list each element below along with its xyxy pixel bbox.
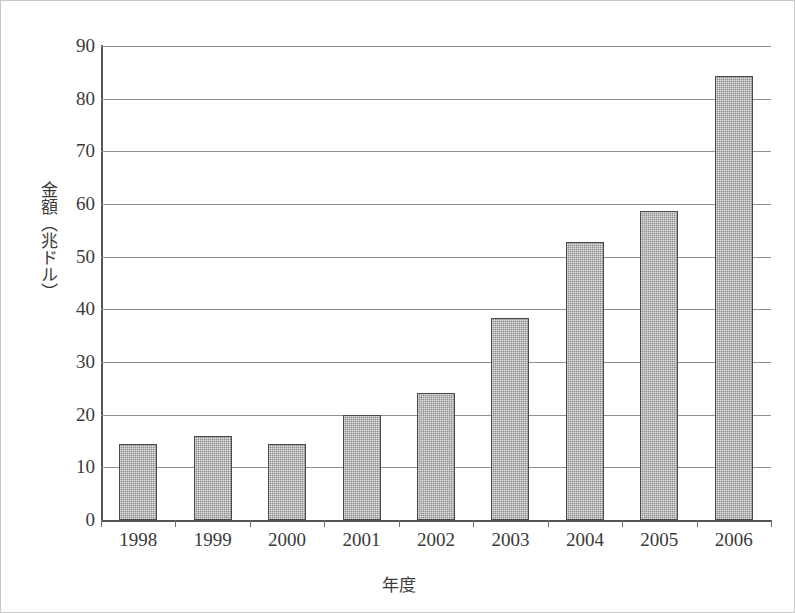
x-axis-tick-marks <box>101 520 771 528</box>
y-tick-label-10: 10 <box>57 457 95 476</box>
x-axis-title: 年度 <box>1 571 795 596</box>
bar-cell <box>548 46 622 520</box>
y-tick-label-70: 70 <box>57 141 95 160</box>
bar-2001 <box>343 415 381 520</box>
bar-2003 <box>491 318 529 520</box>
x-tick-mark <box>250 520 251 527</box>
y-axis-title: 金額（兆ドル） <box>23 181 57 300</box>
bar-cell <box>175 46 249 520</box>
x-tick-label-2005: 2005 <box>640 529 678 551</box>
x-tick-label-2002: 2002 <box>417 529 455 551</box>
x-tick-mark <box>473 520 474 527</box>
bar-cell <box>697 46 771 520</box>
y-tick-label-20: 20 <box>57 405 95 424</box>
bar-2006 <box>715 76 753 521</box>
x-tick-mark <box>548 520 549 527</box>
y-axis-tick-labels: 0102030405060708090 <box>57 1 95 613</box>
plot-area <box>101 46 771 520</box>
x-tick-label-2001: 2001 <box>343 529 381 551</box>
x-tick-label-1999: 1999 <box>194 529 232 551</box>
y-tick-label-80: 80 <box>57 89 95 108</box>
x-tick-label-2004: 2004 <box>566 529 604 551</box>
bar-cell <box>101 46 175 520</box>
x-tick-mark <box>622 520 623 527</box>
x-tick-mark <box>697 520 698 527</box>
x-tick-label-2003: 2003 <box>491 529 529 551</box>
bar-1999 <box>194 436 232 520</box>
chart-page: 金額（兆ドル） 0102030405060708090 199819992000… <box>0 0 795 613</box>
y-tick-label-30: 30 <box>57 352 95 371</box>
y-tick-label-50: 50 <box>57 247 95 266</box>
x-tick-label-1998: 1998 <box>119 529 157 551</box>
y-tick-label-60: 60 <box>57 194 95 213</box>
x-tick-label-2006: 2006 <box>715 529 753 551</box>
bar-2005 <box>640 211 678 520</box>
x-tick-mark <box>101 520 102 527</box>
bar-cell <box>622 46 696 520</box>
x-tick-mark <box>324 520 325 527</box>
bar-2002 <box>417 393 455 520</box>
bar-2004 <box>566 242 604 520</box>
bar-cell <box>250 46 324 520</box>
x-tick-label-2000: 2000 <box>268 529 306 551</box>
y-tick-label-90: 90 <box>57 36 95 55</box>
x-tick-mark <box>771 520 772 527</box>
y-tick-label-40: 40 <box>57 299 95 318</box>
y-tick-label-0: 0 <box>57 510 95 529</box>
bar-2000 <box>268 444 306 520</box>
bar-series <box>101 46 771 520</box>
x-axis-tick-labels: 199819992000200120022003200420052006 <box>101 529 771 557</box>
bar-cell <box>324 46 398 520</box>
bar-cell <box>399 46 473 520</box>
x-tick-mark <box>175 520 176 527</box>
x-tick-mark <box>399 520 400 527</box>
bar-cell <box>473 46 547 520</box>
bar-1998 <box>119 444 157 520</box>
